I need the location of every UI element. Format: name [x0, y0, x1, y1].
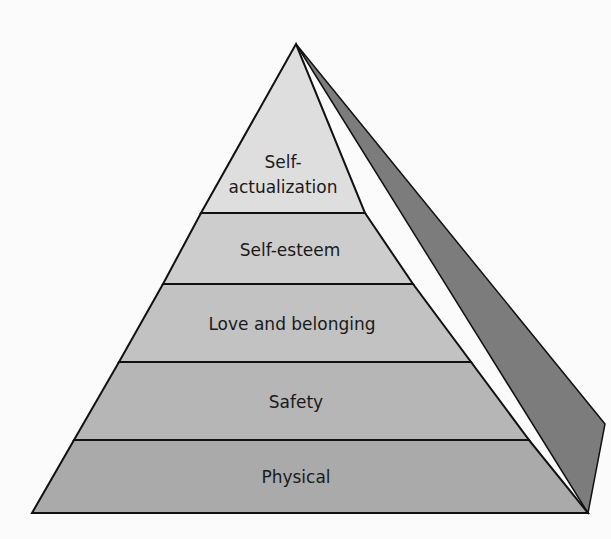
label-love-and-belonging: Love and belonging [208, 314, 375, 334]
label-safety: Safety [269, 392, 323, 412]
label-self-actualization-line2: actualization [229, 177, 338, 197]
hierarchy-pyramid: Self- actualization Self-esteem Love and… [0, 0, 611, 539]
label-self-esteem: Self-esteem [240, 240, 341, 260]
label-self-actualization-line1: Self- [264, 152, 301, 172]
label-physical: Physical [261, 467, 330, 487]
